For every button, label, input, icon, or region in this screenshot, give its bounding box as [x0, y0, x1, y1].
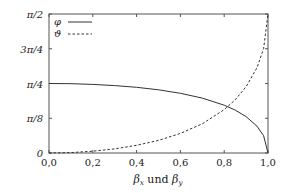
y-tick-label: π/2 [26, 9, 43, 20]
x-tick-label: 1,0 [260, 157, 276, 168]
plot-frame [49, 14, 268, 153]
x-tick-label: 0,8 [216, 157, 232, 168]
y-tick-label: π/8 [26, 113, 43, 124]
legend: φ ϑ [54, 16, 92, 39]
x-tick-label: 0,4 [129, 157, 145, 168]
legend-label-theta: ϑ [54, 28, 61, 39]
legend-label-phi: φ [54, 16, 61, 27]
y-tick-label: 0 [37, 148, 44, 159]
x-tick-label: 0,2 [85, 157, 101, 168]
phi-series-line [49, 84, 268, 154]
theta-series-line [49, 14, 268, 153]
chart: 0,00,20,40,60,81,0 0π/8π/43π/4π/2 φ ϑ βx… [0, 0, 287, 193]
x-axis-label: βx und βy [133, 173, 184, 187]
y-tick-label: π/4 [26, 79, 43, 90]
y-tick-label: 3π/4 [20, 44, 43, 55]
x-axis-ticks: 0,00,20,40,60,81,0 [41, 14, 276, 168]
x-tick-label: 0,0 [41, 157, 57, 168]
x-tick-label: 0,6 [172, 157, 188, 168]
